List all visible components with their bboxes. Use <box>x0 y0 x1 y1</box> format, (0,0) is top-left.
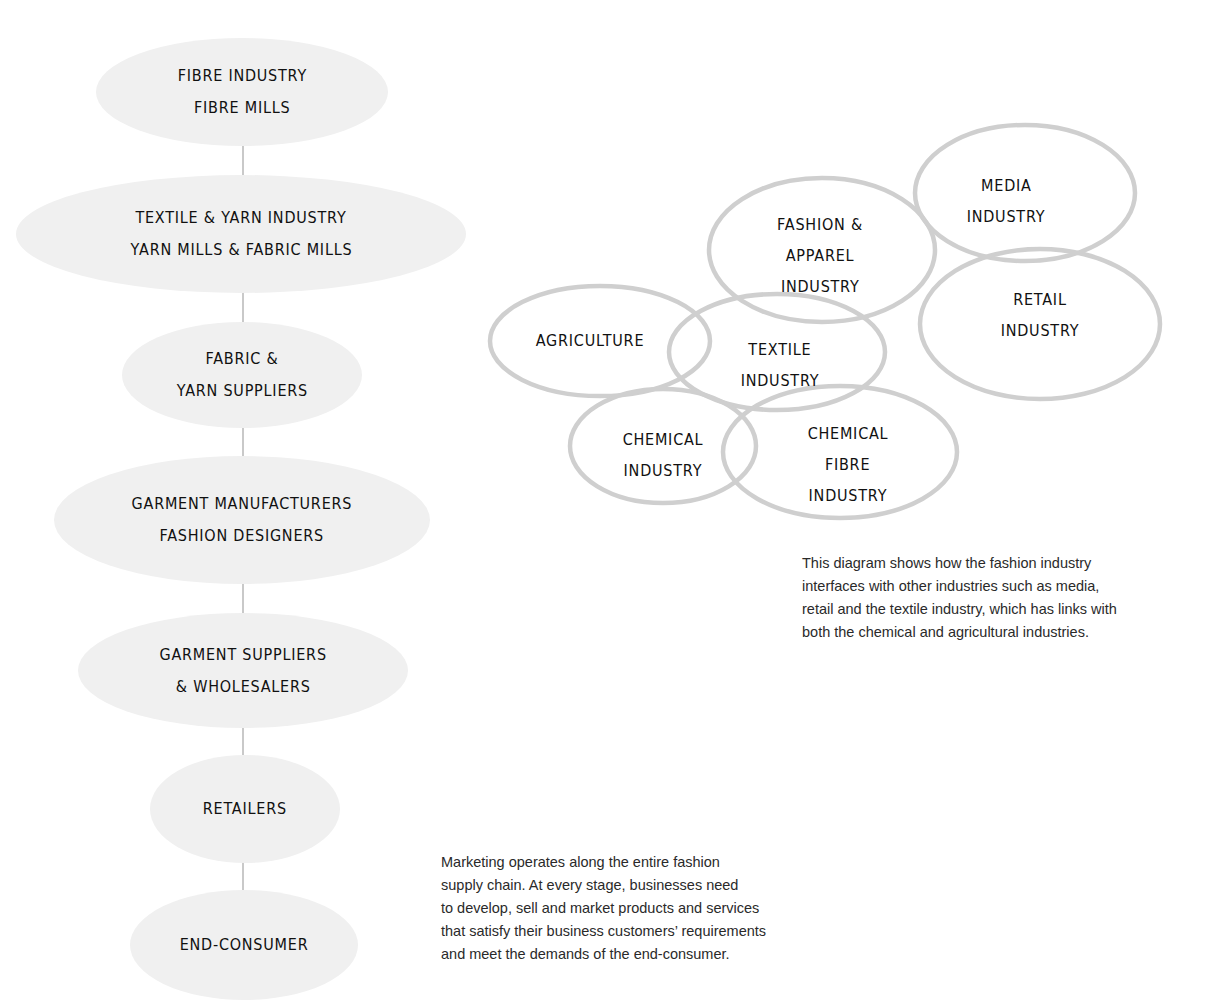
caption-line: that satisfy their business customers’ r… <box>441 920 766 943</box>
venn-text: INDUSTRY <box>741 366 820 397</box>
caption-line: and meet the demands of the end-consumer… <box>441 943 766 966</box>
venn-text: INDUSTRY <box>624 456 703 487</box>
venn-label-chemical-fibre: CHEMICAL FIBRE INDUSTRY <box>806 419 890 512</box>
caption-line: both the chemical and agricultural indus… <box>802 621 1117 644</box>
venn-text: FIBRE <box>825 450 870 481</box>
supply-chain-caption: Marketing operates along the entire fash… <box>441 851 766 966</box>
caption-line: interfaces with other industries such as… <box>802 575 1117 598</box>
venn-text: FASHION & <box>777 210 863 241</box>
caption-line: retail and the textile industry, which h… <box>802 598 1117 621</box>
venn-text: AGRICULTURE <box>536 326 645 357</box>
venn-text: TEXTILE <box>748 335 811 366</box>
venn-text: CHEMICAL <box>623 425 704 456</box>
venn-label-textile: TEXTILE INDUSTRY <box>739 335 821 397</box>
venn-text: INDUSTRY <box>781 272 860 303</box>
venn-caption: This diagram shows how the fashion indus… <box>802 552 1117 644</box>
venn-label-fashion-apparel: FASHION & APPAREL INDUSTRY <box>775 210 864 303</box>
venn-label-agriculture: AGRICULTURE <box>533 326 646 357</box>
venn-text: APPAREL <box>786 241 855 272</box>
caption-line: This diagram shows how the fashion indus… <box>802 552 1117 575</box>
venn-text: RETAIL <box>1013 285 1067 316</box>
venn-label-chemical: CHEMICAL INDUSTRY <box>621 425 705 487</box>
caption-line: Marketing operates along the entire fash… <box>441 851 766 874</box>
venn-text: INDUSTRY <box>1001 316 1080 347</box>
caption-line: supply chain. At every stage, businesses… <box>441 874 766 897</box>
venn-label-media: MEDIA INDUSTRY <box>965 171 1047 233</box>
venn-text: CHEMICAL <box>808 419 889 450</box>
caption-line: to develop, sell and market products and… <box>441 897 766 920</box>
venn-text: MEDIA <box>981 171 1032 202</box>
venn-text: INDUSTRY <box>809 481 888 512</box>
venn-text: INDUSTRY <box>967 202 1046 233</box>
venn-label-retail: RETAIL INDUSTRY <box>999 285 1081 347</box>
